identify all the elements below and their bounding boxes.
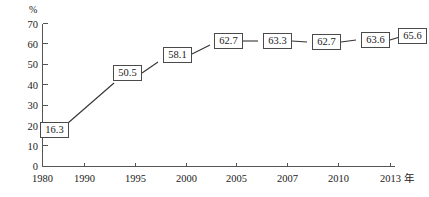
value-label-63-6: 63.6 (362, 33, 390, 48)
value-label-text: 63.3 (268, 35, 286, 46)
value-label-text: 50.5 (118, 67, 136, 78)
value-label-65-6: 65.6 (399, 29, 427, 44)
y-tick-label-60: 60 (28, 39, 39, 50)
x-axis-unit-label: 年 (404, 172, 414, 184)
value-label-text: 62.7 (317, 36, 335, 47)
value-label-63-3: 63.3 (264, 34, 292, 49)
x-axis-ticks (85, 163, 391, 167)
y-tick-label-0: 0 (33, 161, 38, 172)
value-label-text: 65.6 (403, 30, 421, 41)
y-tick-label-30: 30 (28, 100, 39, 111)
y-tick-label-50: 50 (28, 59, 39, 70)
value-label-62-7-2007: 62.7 (313, 35, 341, 50)
value-label-text: 62.7 (219, 35, 237, 46)
y-tick-label-10: 10 (28, 141, 39, 152)
x-tick-label-1990: 1990 (74, 173, 95, 184)
value-label-58-1: 58.1 (164, 48, 192, 63)
x-tick-label-1980: 1980 (32, 173, 53, 184)
y-tick-label-40: 40 (28, 80, 39, 91)
value-label-text: 16.3 (45, 124, 63, 135)
x-tick-label-1995: 1995 (125, 173, 146, 184)
value-label-50-5: 50.5 (114, 66, 142, 81)
x-tick-label-2005: 2005 (226, 173, 247, 184)
y-tick-label-70: 70 (28, 19, 39, 30)
y-tick-label-20: 20 (28, 121, 39, 132)
x-tick-label-2000: 2000 (176, 173, 197, 184)
line-chart: % 70 60 50 40 30 20 10 0 1980 1990 1995 … (0, 0, 429, 197)
value-label-text: 58.1 (168, 49, 186, 60)
x-tick-label-2007: 2007 (277, 173, 298, 184)
chart-canvas: % 70 60 50 40 30 20 10 0 1980 1990 1995 … (0, 0, 429, 197)
value-label-16-3: 16.3 (41, 123, 69, 138)
x-tick-label-2013: 2013 (380, 173, 401, 184)
value-label-text: 63.6 (366, 34, 384, 45)
y-axis-unit-label: % (29, 4, 37, 15)
x-tick-label-2010: 2010 (328, 173, 349, 184)
value-label-62-7-2000: 62.7 (215, 34, 243, 49)
